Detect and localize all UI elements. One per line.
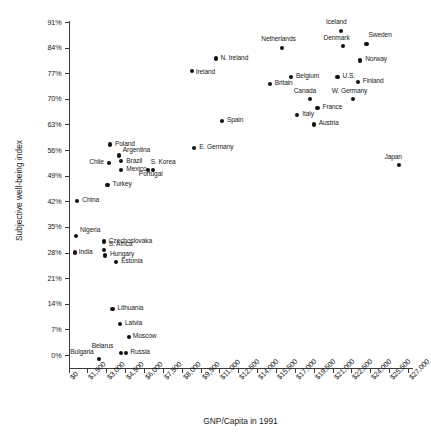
y-tick — [65, 227, 69, 228]
data-point-label: Iceland — [320, 18, 352, 25]
y-tick — [65, 99, 69, 100]
x-tick-label: $8,000 — [181, 360, 202, 381]
data-point-label: Argentina — [123, 146, 150, 153]
data-point-marker — [308, 97, 312, 101]
data-point-marker — [75, 199, 79, 203]
y-tick-label: 7% — [29, 325, 62, 334]
y-tick-label: 35% — [29, 222, 62, 231]
data-point-label: E. Germany — [199, 143, 233, 150]
x-axis-title: GNP/Capita in 1991 — [203, 416, 278, 426]
data-point-marker — [339, 29, 343, 33]
data-point-marker — [107, 161, 111, 165]
data-point-marker — [312, 122, 316, 126]
x-tick-label: $1,500 — [86, 360, 107, 381]
data-point-marker — [220, 119, 224, 123]
x-tick-label: $3,000 — [105, 360, 126, 381]
x-tick-label: $27,000 — [407, 357, 431, 381]
data-point-marker — [127, 335, 131, 339]
data-point-label: Chile — [89, 158, 104, 165]
y-tick-label: 28% — [29, 248, 62, 257]
y-tick — [65, 150, 69, 151]
data-point-label: Lithuania — [118, 304, 144, 311]
y-tick — [65, 124, 69, 125]
data-point-label: Turkey — [112, 180, 131, 187]
data-point-marker — [124, 351, 128, 355]
data-point-marker — [119, 159, 123, 163]
data-point-marker — [192, 146, 196, 150]
y-tick-label: 63% — [29, 120, 62, 129]
y-tick — [65, 278, 69, 279]
data-point-label: Russia — [130, 348, 150, 355]
data-point-marker — [358, 58, 362, 62]
y-tick-label: 14% — [29, 299, 62, 308]
data-point-marker — [110, 307, 114, 311]
data-point-marker — [119, 351, 123, 355]
data-point-label: S. Korea — [151, 158, 176, 165]
data-point-marker — [108, 142, 112, 146]
data-point-label: Sweden — [369, 31, 392, 38]
data-point-marker — [73, 250, 77, 254]
data-point-marker — [397, 163, 401, 167]
data-point-marker — [364, 42, 368, 46]
y-tick — [65, 48, 69, 49]
data-point-label: Denmark — [321, 34, 353, 41]
data-point-marker — [105, 183, 109, 187]
data-point-marker — [214, 56, 218, 60]
data-point-label: N. Ireland — [221, 54, 249, 61]
data-point-label: Bulgaria — [70, 348, 93, 355]
y-tick — [65, 304, 69, 305]
x-tick-label: $7,500 — [162, 360, 183, 381]
y-tick-label: 21% — [29, 274, 62, 283]
data-point-label: Moscow — [133, 332, 157, 339]
data-point-label: Britain — [275, 79, 293, 86]
data-point-marker — [315, 106, 319, 110]
data-point-marker — [117, 153, 121, 157]
data-point-label: Belarus — [92, 342, 114, 349]
y-tick-label: 91% — [29, 18, 62, 27]
data-point-label: Finland — [363, 77, 384, 84]
data-point-label: Nigeria — [80, 226, 100, 233]
data-point-marker — [97, 357, 101, 361]
data-point-label: Netherlands — [261, 35, 293, 42]
x-tick-label: $9,500 — [200, 360, 221, 381]
data-point-label: U.S. — [343, 72, 355, 79]
x-tick-label: $4,500 — [124, 360, 145, 381]
data-point-marker — [118, 322, 122, 326]
y-tick — [65, 201, 69, 202]
data-point-marker — [341, 44, 345, 48]
data-point-label: Italy — [302, 110, 314, 117]
data-point-label: W. Germany — [332, 87, 364, 94]
y-tick — [65, 176, 69, 177]
y-tick-label: 49% — [29, 171, 62, 180]
data-point-marker — [280, 46, 284, 50]
data-point-label: Japan — [377, 153, 409, 160]
data-point-marker — [190, 69, 194, 73]
y-tick-label: 70% — [29, 94, 62, 103]
data-point-label: Austria — [319, 119, 339, 126]
data-point-marker — [103, 253, 107, 257]
data-point-label: China — [82, 196, 99, 203]
y-tick-label: 42% — [29, 197, 62, 206]
y-tick — [65, 253, 69, 254]
data-point-label: France — [322, 103, 342, 110]
y-tick — [65, 329, 69, 330]
y-tick — [65, 73, 69, 74]
data-point-marker — [102, 239, 106, 243]
data-point-label: Norway — [365, 55, 387, 62]
data-point-marker — [356, 80, 360, 84]
data-point-marker — [74, 234, 78, 238]
data-point-label: Canada — [289, 87, 321, 94]
data-point-label: Latvia — [125, 319, 142, 326]
y-tick — [65, 355, 69, 356]
data-point-label: Belgium — [296, 72, 319, 79]
x-tick-label: $6,000 — [143, 360, 164, 381]
data-point-marker — [335, 75, 339, 79]
data-point-label: India — [79, 248, 93, 255]
y-axis-title: Subjective well-being index — [14, 139, 24, 240]
data-point-label: Estonia — [121, 257, 142, 264]
y-tick-label: 0% — [29, 351, 62, 360]
data-point-marker — [114, 260, 118, 264]
y-tick-label: 77% — [29, 69, 62, 78]
y-tick-label: 56% — [29, 146, 62, 155]
data-point-marker — [268, 82, 272, 86]
